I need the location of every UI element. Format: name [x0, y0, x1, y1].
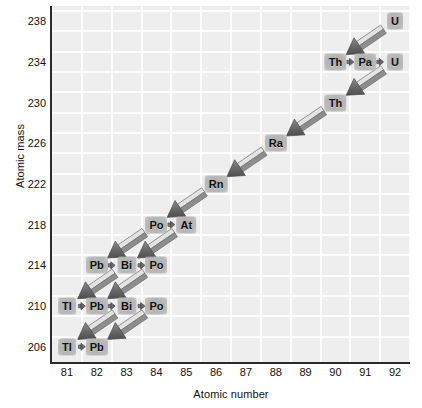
nuclide-label-tl-206: Tl	[58, 338, 76, 355]
x-tick-label: 81	[55, 366, 79, 378]
x-tick-label: 83	[115, 366, 139, 378]
y-tick-label: 238	[12, 15, 46, 27]
gridline-vertical	[111, 6, 113, 362]
nuclide-label-po-218: Po	[145, 216, 167, 233]
gridline-horizontal	[52, 214, 410, 216]
x-tick-label: 92	[383, 366, 407, 378]
x-tick-label: 86	[204, 366, 228, 378]
gridline-vertical	[200, 6, 202, 362]
y-tick-label: 234	[12, 56, 46, 68]
gridline-vertical	[320, 6, 322, 362]
gridline-horizontal	[52, 173, 410, 175]
y-axis-title: Atomic mass	[14, 106, 26, 206]
gridline-horizontal	[52, 10, 410, 12]
x-axis-tick-labels: 818283848586878889909192	[0, 366, 422, 382]
y-tick-label: 206	[12, 341, 46, 353]
y-axis-line	[50, 6, 52, 364]
nuclide-label-tl-210: Tl	[58, 298, 76, 315]
nuclide-label-pa-234: Pa	[355, 53, 376, 70]
gridline-horizontal	[52, 132, 410, 134]
gridline-horizontal	[52, 152, 410, 154]
x-axis-title: Atomic number	[52, 388, 410, 400]
gridline-horizontal	[52, 30, 410, 32]
nuclide-label-th-230: Th	[325, 94, 346, 111]
nuclide-label-rn-222: Rn	[205, 176, 228, 193]
nuclide-label-po-210: Po	[145, 298, 167, 315]
plot-area: UThPaUThRaRnPoAtPbBiPoTlPbBiPoTlPb	[52, 6, 410, 362]
x-axis-line	[50, 362, 410, 364]
x-tick-label: 89	[294, 366, 318, 378]
gridline-horizontal	[52, 71, 410, 73]
gridline-vertical	[81, 6, 83, 362]
x-tick-label: 82	[85, 366, 109, 378]
gridline-horizontal	[52, 193, 410, 195]
x-tick-label: 91	[353, 366, 377, 378]
gridline-vertical	[230, 6, 232, 362]
nuclide-label-pb-210: Pb	[86, 298, 108, 315]
nuclide-label-u-234: U	[387, 53, 403, 70]
nuclide-label-u-238: U	[387, 13, 403, 30]
nuclide-label-at-218: At	[176, 216, 196, 233]
gridline-horizontal	[52, 315, 410, 317]
nuclide-label-th-234: Th	[325, 53, 346, 70]
gridline-vertical	[141, 6, 143, 362]
nuclide-label-po-214: Po	[145, 257, 167, 274]
gridline-vertical	[409, 6, 410, 362]
x-tick-label: 85	[174, 366, 198, 378]
x-tick-label: 87	[234, 366, 258, 378]
x-tick-label: 84	[144, 366, 168, 378]
gridline-vertical	[379, 6, 381, 362]
gridline-horizontal	[52, 234, 410, 236]
y-tick-label: 218	[12, 219, 46, 231]
gridline-vertical	[170, 6, 172, 362]
gridline-horizontal	[52, 112, 410, 114]
gridline-vertical	[290, 6, 292, 362]
nuclide-label-bi-210: Bi	[117, 298, 136, 315]
y-tick-label: 210	[12, 300, 46, 312]
y-tick-label: 214	[12, 259, 46, 271]
gridline-vertical	[260, 6, 262, 362]
nuclide-label-bi-214: Bi	[117, 257, 136, 274]
x-tick-label: 90	[323, 366, 347, 378]
nuclide-label-ra-226: Ra	[265, 135, 287, 152]
decay-chain-chart: UThPaUThRaRnPoAtPbBiPoTlPbBiPoTlPb 20621…	[0, 0, 422, 408]
gridline-horizontal	[52, 91, 410, 93]
gridline-vertical	[349, 6, 351, 362]
x-tick-label: 88	[264, 366, 288, 378]
nuclide-label-pb-214: Pb	[86, 257, 108, 274]
gridline-horizontal	[52, 275, 410, 277]
nuclide-label-pb-206: Pb	[86, 338, 108, 355]
